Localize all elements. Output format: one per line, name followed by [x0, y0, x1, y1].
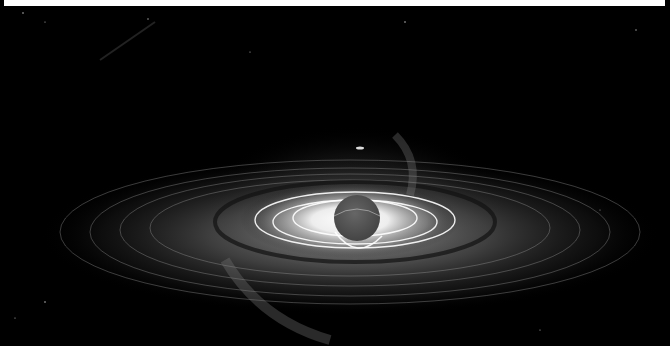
black-hole-image	[0, 0, 670, 346]
